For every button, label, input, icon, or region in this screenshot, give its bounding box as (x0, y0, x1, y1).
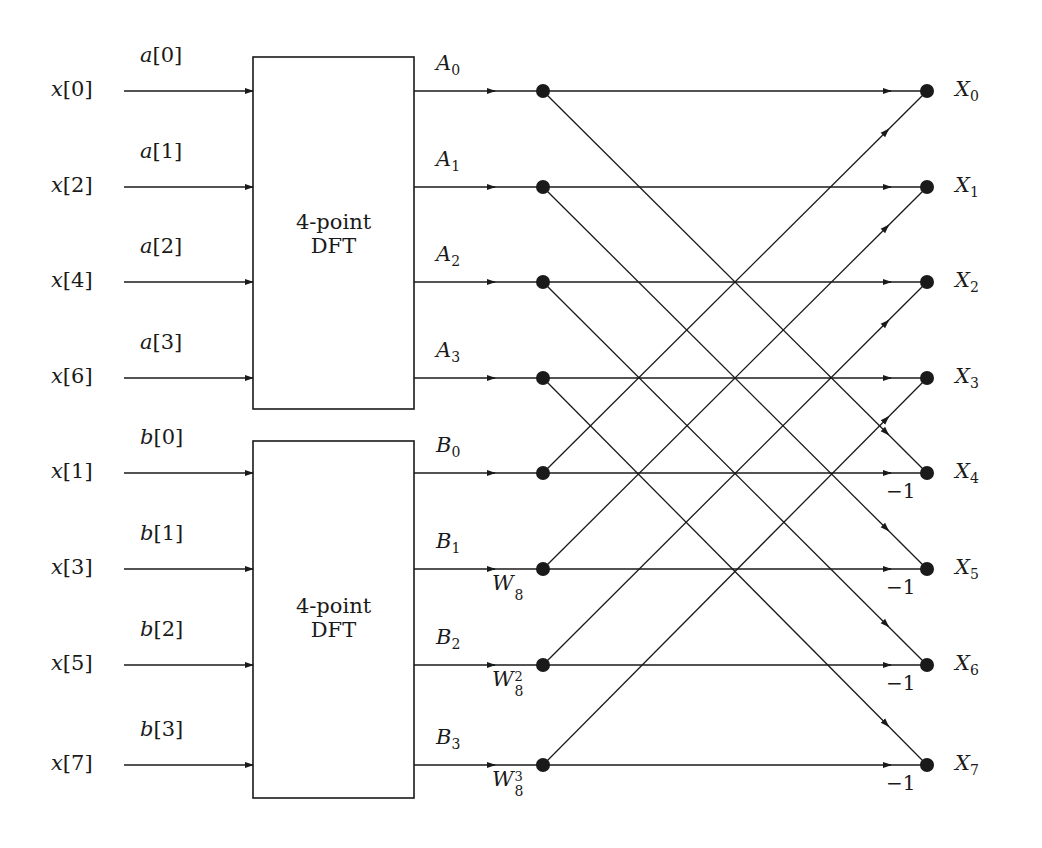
twiddle-superscript: 2 (515, 670, 523, 683)
sequence-label: a[0] (140, 45, 182, 66)
negation-label: −1 (886, 671, 915, 695)
input-label: x[6] (51, 366, 93, 387)
output-symbol: X (955, 268, 970, 292)
output-label: X2 (955, 270, 979, 294)
input-label: x[3] (51, 557, 93, 578)
dft-output-label: B1 (436, 531, 460, 555)
dft-output-label: B0 (436, 435, 460, 459)
sequence-label: a[3] (140, 332, 182, 353)
sequence-label: b[2] (140, 619, 183, 640)
sequence-symbol: b (140, 717, 153, 741)
cross-wire-up (887, 91, 927, 131)
input-symbol: x (51, 77, 63, 101)
cross-wire-down-arrow (543, 187, 889, 531)
output-label: X7 (955, 753, 979, 777)
input-label: x[4] (51, 270, 93, 291)
sequence-index: [2] (153, 617, 183, 641)
cross-wire-down (887, 724, 927, 765)
sequence-symbol: a (140, 330, 153, 354)
output-node (920, 275, 934, 289)
sequence-label: a[1] (140, 141, 182, 162)
dft-output-subscript: 2 (451, 253, 460, 269)
butterfly-input-node (536, 758, 550, 772)
dft-bottom-label: 4-point DFT (253, 594, 414, 642)
dft-bottom-line2: DFT (253, 618, 414, 642)
input-label: x[1] (51, 461, 93, 482)
cross-wire-down-arrow (543, 282, 889, 627)
negation-label: −1 (886, 575, 915, 599)
sequence-index: [2] (153, 234, 183, 258)
dft-output-symbol: A (436, 147, 451, 171)
output-symbol: X (955, 751, 970, 775)
twiddle-subscript: 8 (515, 684, 524, 698)
output-label: X0 (955, 79, 979, 103)
output-node (920, 758, 934, 772)
output-label: X6 (955, 653, 979, 677)
input-label: x[2] (51, 175, 93, 196)
dft-output-label: B3 (436, 727, 460, 751)
dft-top-line1: 4-point (253, 210, 414, 234)
sequence-index: [1] (153, 139, 183, 163)
cross-wire-down (887, 433, 927, 473)
output-symbol: X (955, 77, 970, 101)
twiddle-scripts: 82 (514, 676, 526, 686)
input-label: x[5] (51, 653, 93, 674)
dft-output-label: B2 (436, 627, 460, 651)
cross-wire-down (887, 625, 927, 665)
output-label: X5 (955, 557, 979, 581)
cross-wire-up (887, 187, 927, 227)
output-subscript: 6 (970, 662, 979, 678)
output-symbol: X (955, 364, 970, 388)
sequence-index: [0] (153, 425, 183, 449)
dft-output-symbol: A (436, 338, 451, 362)
output-symbol: X (955, 173, 970, 197)
input-symbol: x (51, 364, 63, 388)
twiddle-base: W (492, 571, 514, 595)
twiddle-factor-label: W8 (492, 573, 526, 594)
output-node (920, 658, 934, 672)
input-symbol: x (51, 555, 63, 579)
sequence-label: b[0] (140, 427, 183, 448)
sequence-symbol: b (140, 425, 153, 449)
input-index: [3] (63, 555, 93, 579)
butterfly-input-node (536, 562, 550, 576)
twiddle-superscript: 3 (515, 770, 523, 783)
dft-top-line2: DFT (253, 234, 414, 258)
butterfly-input-node (536, 658, 550, 672)
dft-bottom-line1: 4-point (253, 594, 414, 618)
sequence-symbol: b (140, 617, 153, 641)
dft-output-symbol: B (436, 433, 451, 457)
output-subscript: 1 (970, 184, 979, 200)
input-symbol: x (51, 459, 63, 483)
input-index: [5] (63, 651, 93, 675)
fft-butterfly-diagram: 4-point DFT 4-point DFT x[0]a[0]x[2]a[1]… (0, 0, 1042, 848)
cross-wire-up (887, 282, 927, 322)
output-node (920, 180, 934, 194)
output-node (920, 562, 934, 576)
cross-wire-down-arrow (543, 378, 889, 726)
twiddle-subscript: 8 (515, 588, 524, 602)
dft-output-label: A2 (436, 244, 460, 268)
output-label: X1 (955, 175, 979, 199)
twiddle-subscript: 8 (515, 784, 524, 798)
dft-output-symbol: A (436, 242, 451, 266)
output-subscript: 4 (970, 470, 979, 486)
dft-output-symbol: B (436, 725, 451, 749)
cross-wire-down (887, 529, 927, 569)
twiddle-base: W (492, 767, 514, 791)
output-node (920, 84, 934, 98)
twiddle-scripts: 83 (514, 776, 526, 786)
butterfly-input-node (536, 180, 550, 194)
sequence-label: b[3] (140, 719, 183, 740)
negation-label: −1 (886, 479, 915, 503)
input-index: [2] (63, 173, 93, 197)
output-symbol: X (955, 651, 970, 675)
dft-output-label: A3 (436, 340, 460, 364)
dft-output-symbol: B (436, 529, 451, 553)
sequence-index: [1] (153, 521, 183, 545)
output-symbol: X (955, 555, 970, 579)
output-subscript: 0 (970, 88, 979, 104)
cross-wire-up-arrow (543, 129, 889, 473)
twiddle-base: W (492, 667, 514, 691)
sequence-index: [0] (153, 43, 183, 67)
